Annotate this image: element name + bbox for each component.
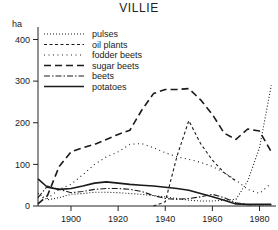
legend-label-sugar-beets: sugar beets — [92, 61, 140, 71]
y-tick-label: 200 — [15, 118, 30, 128]
legend-label-fodder-beets: fodder beets — [92, 50, 143, 60]
x-tick-label: 1920 — [108, 214, 128, 224]
x-tick-label: 1940 — [155, 214, 175, 224]
legend-label-pulses: pulses — [92, 29, 119, 39]
x-tick-label: 1980 — [249, 214, 269, 224]
series-line-oil-plants — [153, 121, 235, 206]
x-tick-label: 1960 — [202, 214, 222, 224]
series-line-potatoes — [38, 179, 271, 204]
y-tick-label: 400 — [15, 35, 30, 45]
x-axis-ticks: 19001920194019601980 — [61, 206, 270, 224]
y-tick-label: 100 — [15, 160, 30, 170]
y-axis-ticks: 0100200300400 — [15, 35, 38, 212]
legend-label-beets: beets — [92, 71, 115, 81]
series-line-fodder-beets — [38, 144, 271, 199]
plot-area: 0100200300400 19001920194019601980 pulse… — [0, 0, 278, 230]
x-tick-label: 1900 — [61, 214, 81, 224]
data-series-group — [38, 85, 271, 206]
chart-legend: pulsesoil plantsfodder beetssugar beetsb… — [44, 29, 143, 91]
y-tick-label: 0 — [25, 201, 30, 211]
y-tick-label: 300 — [15, 76, 30, 86]
series-line-pulses — [38, 85, 271, 201]
legend-label-oil-plants: oil plants — [92, 40, 128, 50]
chart-container: VILLIE ha 0100200300400 1900192019401960… — [0, 0, 278, 230]
legend-label-potatoes: potatoes — [92, 82, 127, 92]
